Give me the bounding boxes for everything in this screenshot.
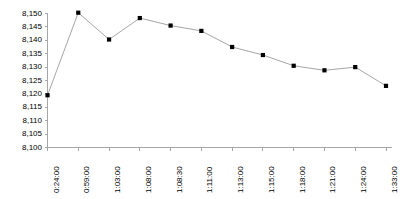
y-axis-tick-label: 8,150 — [0, 9, 42, 18]
data-point-marker — [45, 93, 49, 97]
x-axis-tick-label: 1:13:00 — [236, 166, 245, 193]
line-chart: 8,1508,1458,1408,1358,1308,1258,1208,115… — [0, 0, 405, 199]
data-point-marker — [107, 37, 111, 41]
x-axis-tick-label: 1:18:00 — [298, 166, 307, 193]
data-point-marker — [384, 84, 388, 88]
y-axis-tick-label: 8,115 — [0, 102, 42, 111]
y-axis-tick-label: 8,140 — [0, 35, 42, 44]
data-point-marker — [199, 29, 203, 33]
y-axis-tick-label: 8,100 — [0, 143, 42, 152]
axes-group — [45, 13, 393, 151]
x-axis-tick-label: 1:08:00 — [144, 166, 153, 193]
y-axis-tick-label: 8,120 — [0, 89, 42, 98]
x-axis-tick-label: 0:24:00 — [52, 166, 61, 193]
data-point-marker — [322, 68, 326, 72]
data-point-marker — [261, 53, 265, 57]
x-axis-tick-label: 1:15:00 — [267, 166, 276, 193]
y-axis-tick-label: 8,110 — [0, 116, 42, 125]
data-series-markers — [45, 11, 388, 98]
data-point-marker — [76, 11, 80, 15]
x-axis-tick-label: 1:21:00 — [328, 166, 337, 193]
x-axis-tick-label: 0:59:00 — [82, 166, 91, 193]
y-axis-tick-label: 8,125 — [0, 76, 42, 85]
y-axis-tick-label: 8,130 — [0, 62, 42, 71]
data-point-marker — [168, 23, 172, 27]
x-axis-tick-label: 1:03:00 — [113, 166, 122, 193]
data-point-marker — [292, 64, 296, 68]
y-axis-tick-label: 8,105 — [0, 129, 42, 138]
x-axis-tick-label: 1:11:00 — [205, 167, 214, 193]
data-point-marker — [230, 45, 234, 49]
y-axis-tick-label: 8,135 — [0, 49, 42, 58]
x-axis-tick-label: 1:08:30 — [175, 166, 184, 193]
data-series-line — [48, 13, 387, 96]
x-axis-tick-label: 1:33:00 — [390, 166, 399, 193]
x-axis-tick-label: 1:24:00 — [359, 166, 368, 193]
y-axis-tick-label: 8,145 — [0, 22, 42, 31]
data-point-marker — [353, 65, 357, 69]
data-point-marker — [138, 16, 142, 20]
